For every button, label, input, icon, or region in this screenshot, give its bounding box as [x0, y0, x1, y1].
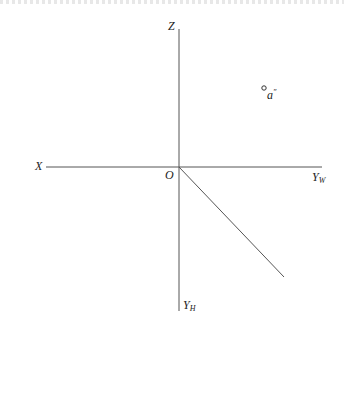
origin-label-text: O [165, 168, 174, 182]
x-label-text: X [35, 159, 42, 173]
z-label-text: Z [168, 19, 175, 33]
yw-axis-label: YW [312, 171, 325, 185]
yh-label-text: Y [183, 298, 190, 312]
point-a-double-prime-marker [262, 86, 266, 90]
projection-diagram [0, 0, 344, 414]
yh-axis-label: YH [183, 299, 195, 313]
x-axis-label: X [35, 160, 42, 172]
diagonal-45-line [179, 167, 284, 277]
origin-label: O [165, 169, 174, 181]
point-a-double-prime-label: a″ [267, 89, 276, 101]
z-axis-label: Z [168, 20, 175, 32]
yw-label-subscript: W [319, 176, 326, 185]
point-label-prime: ″ [273, 88, 276, 97]
yh-label-subscript: H [190, 304, 196, 313]
yw-label-text: Y [312, 170, 319, 184]
